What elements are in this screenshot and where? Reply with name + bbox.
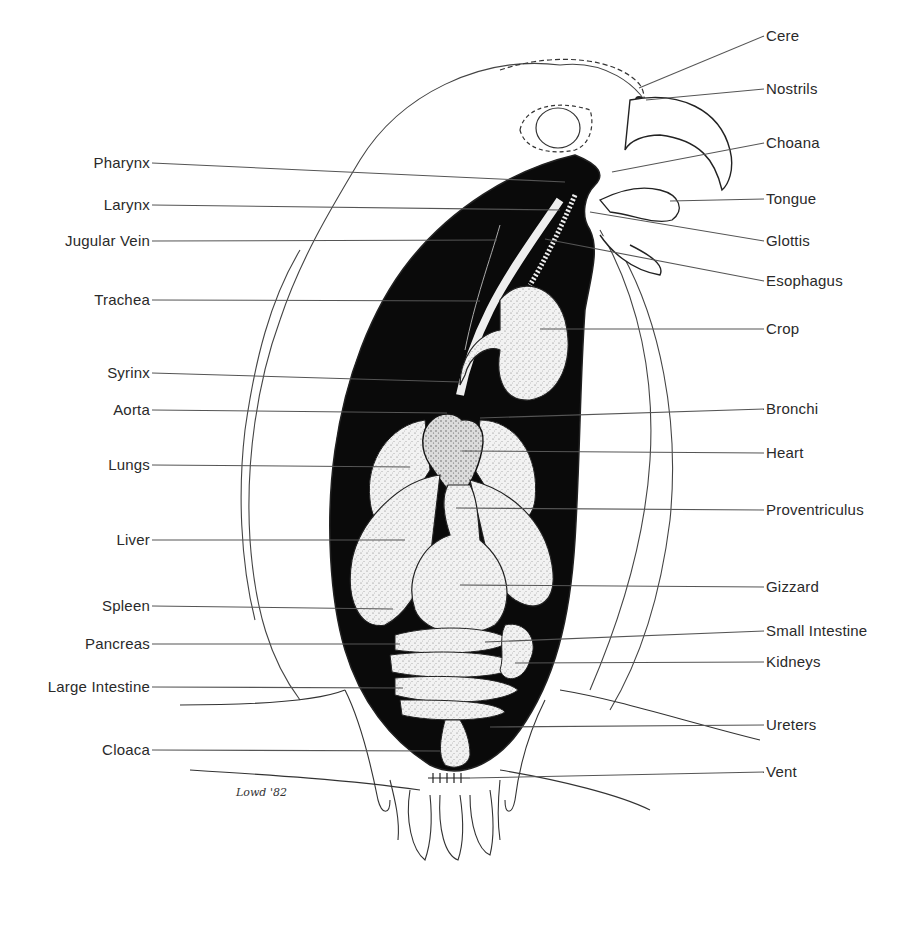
- label-trachea: Trachea: [94, 291, 150, 309]
- leader-line-ureters: [490, 725, 764, 727]
- label-cere: Cere: [766, 27, 799, 45]
- label-aorta: Aorta: [113, 401, 150, 419]
- label-ureters: Ureters: [766, 716, 817, 734]
- label-syrinx: Syrinx: [107, 364, 150, 382]
- label-vent: Vent: [766, 763, 797, 781]
- label-jugular-vein: Jugular Vein: [65, 232, 150, 250]
- label-bronchi: Bronchi: [766, 400, 818, 418]
- label-gizzard: Gizzard: [766, 578, 819, 596]
- label-kidneys: Kidneys: [766, 653, 821, 671]
- label-proventriculus: Proventriculus: [766, 501, 864, 519]
- label-esophagus: Esophagus: [766, 272, 843, 290]
- label-choana: Choana: [766, 134, 820, 152]
- label-larynx: Larynx: [104, 196, 150, 214]
- label-nostrils: Nostrils: [766, 80, 818, 98]
- leader-line-pharynx: [152, 163, 565, 182]
- label-pharynx: Pharynx: [94, 154, 150, 172]
- label-crop: Crop: [766, 320, 799, 338]
- artist-signature: Lowd '82: [236, 786, 287, 799]
- beak: [600, 97, 732, 275]
- label-small-intestine: Small Intestine: [766, 622, 867, 640]
- label-tongue: Tongue: [766, 190, 816, 208]
- leader-line-nostrils: [646, 89, 764, 100]
- parrot-anatomy-diagram: PharynxLarynxJugular VeinTracheaSyrinxAo…: [0, 0, 914, 944]
- label-lungs: Lungs: [108, 456, 150, 474]
- leader-line-glottis: [590, 212, 764, 241]
- leader-line-choana: [612, 143, 764, 172]
- label-pancreas: Pancreas: [85, 635, 150, 653]
- label-spleen: Spleen: [102, 597, 150, 615]
- label-large-intestine: Large Intestine: [48, 678, 150, 696]
- label-heart: Heart: [766, 444, 804, 462]
- label-cloaca: Cloaca: [102, 741, 150, 759]
- label-liver: Liver: [116, 531, 150, 549]
- leader-line-tongue: [670, 199, 764, 201]
- head: [500, 59, 644, 151]
- label-glottis: Glottis: [766, 232, 810, 250]
- vent-mark: [428, 773, 470, 783]
- tongue-shape: [600, 188, 679, 221]
- leader-line-cloaca: [152, 750, 440, 751]
- leader-line-cere: [639, 36, 764, 88]
